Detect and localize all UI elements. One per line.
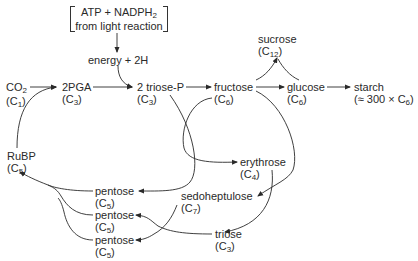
node-fructose: fructose (C6) (214, 81, 253, 107)
triose-name: triose (215, 228, 242, 240)
node-pentose-1: pentose (C5) (95, 185, 134, 211)
node-sedoheptulose: sedoheptulose (C7) (181, 190, 253, 216)
glucose-carbon-sub: 6 (299, 98, 303, 107)
node-starch: starch (≈ 300 × C6) (354, 81, 414, 107)
pentose-3-name: pentose (95, 234, 134, 246)
arrow-fructose-to-erythrose (183, 98, 237, 162)
pga-name: 2PGA (62, 81, 91, 93)
starch-carbon-sub: 6 (406, 98, 410, 107)
arrow-sedoheptulose-to-pentose3 (136, 205, 177, 240)
pentose-3-carbon: C (99, 246, 107, 258)
starch-name: starch (354, 81, 414, 93)
input-line-2: from light reaction (71, 20, 167, 33)
arrow-pentose3-branch (58, 198, 93, 240)
arrow-glucose-to-sucrose (278, 59, 299, 80)
pga-carbon: C (66, 93, 74, 105)
node-pentose-3: pentose (C5) (95, 234, 134, 260)
triose-p-name: 2 triose-P (137, 81, 184, 93)
pentose-2-name: pentose (95, 209, 134, 221)
fructose-name: fructose (214, 81, 253, 93)
arrow-fructose-to-sucrose (256, 58, 277, 80)
sedoheptulose-carbon-sub: 7 (193, 207, 197, 216)
rubp-name: RuBP (7, 150, 36, 162)
triose-carbon-sub: 3 (227, 245, 231, 254)
node-erythrose: erythrose (C4) (240, 156, 286, 182)
sucrose-carbon: C (262, 45, 270, 57)
arrow-triose-p-to-pentose1 (139, 95, 195, 191)
erythrose-carbon: C (244, 168, 252, 180)
sucrose-name: sucrose (258, 33, 297, 45)
node-glucose: glucose (C6) (287, 81, 325, 107)
pga-carbon-sub: 3 (74, 98, 78, 107)
node-2pga: 2PGA (C3) (62, 81, 91, 107)
triose-p-carbon-sub: 3 (149, 98, 153, 107)
energy-label: energy + 2H (88, 54, 148, 66)
co2-name: CO (6, 81, 23, 93)
pentose-1-carbon: C (99, 197, 107, 209)
co2-carbon-sub: 1 (18, 100, 22, 109)
rubp-carbon: C (11, 162, 19, 174)
starch-carbon: ≈ 300 × C (358, 93, 406, 105)
fructose-carbon: C (218, 93, 226, 105)
triose-carbon: C (219, 240, 227, 252)
sedoheptulose-name: sedoheptulose (181, 190, 253, 202)
erythrose-name: erythrose (240, 156, 286, 168)
node-triose-p: 2 triose-P (C3) (137, 81, 184, 107)
arrow-triose-to-pentose2 (136, 215, 212, 234)
triose-p-carbon: C (141, 93, 149, 105)
atp-nadph-label: ATP + NADPH (81, 6, 152, 18)
glucose-carbon: C (291, 93, 299, 105)
pentose-1-name: pentose (95, 185, 134, 197)
co2-subscript: 2 (23, 86, 27, 95)
sedoheptulose-carbon: C (185, 202, 193, 214)
sucrose-carbon-sub: 12 (270, 50, 279, 59)
pentose-2-carbon: C (99, 221, 107, 233)
erythrose-carbon-sub: 4 (252, 173, 256, 182)
arrow-pentose2-branch (48, 185, 93, 215)
glucose-name: glucose (287, 81, 325, 93)
arrow-layer (0, 0, 418, 261)
nadph-subscript: 2 (152, 11, 156, 20)
arrow-energy-to-triose-p (118, 66, 132, 87)
rubp-carbon-sub: 5 (19, 167, 23, 176)
node-rubp: RuBP (C5) (7, 150, 36, 176)
co2-carbon: C (10, 95, 18, 107)
node-co2: CO2 (C1) (6, 81, 27, 109)
node-pentose-2: pentose (C5) (95, 209, 134, 235)
light-reaction-input-box: ATP + NADPH2 from light reaction (70, 6, 168, 32)
pentose-3-carbon-sub: 5 (107, 251, 111, 260)
calvin-cycle-diagram: ATP + NADPH2 from light reaction energy … (0, 0, 418, 261)
fructose-carbon-sub: 6 (226, 98, 230, 107)
node-sucrose: sucrose (C12) (258, 33, 297, 59)
input-line-1: ATP + NADPH2 (71, 6, 167, 20)
node-triose: triose (C3) (215, 228, 242, 254)
